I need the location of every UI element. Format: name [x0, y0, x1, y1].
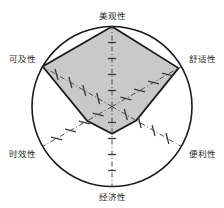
axis-label-lower-left: 时效性 — [9, 149, 36, 159]
radar-chart-svg: 美观性 舒适性 便利性 经济性 时效性 可及性 — [0, 0, 224, 208]
axis-label-lower-right: 便利性 — [189, 149, 216, 159]
axis-label-bottom: 经济性 — [99, 192, 126, 202]
axis-label-upper-right: 舒适性 — [189, 54, 216, 64]
radar-chart-container: 美观性 舒适性 便利性 经济性 时效性 可及性 — [0, 0, 224, 208]
axis-label-top: 美观性 — [99, 11, 126, 21]
axis-label-upper-left: 可及性 — [9, 54, 36, 64]
